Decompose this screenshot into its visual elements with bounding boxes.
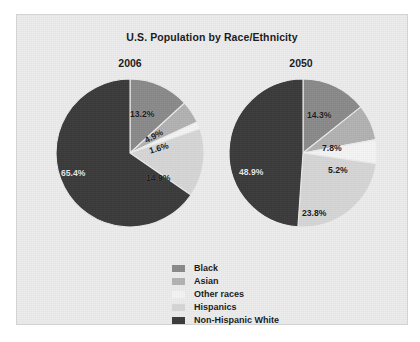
legend-label-black: Black — [194, 262, 218, 275]
panel-title-2006: 2006 — [90, 57, 170, 69]
legend-item-asian: Asian — [172, 275, 279, 288]
pie-chart-2006 — [54, 77, 206, 229]
slice-label-2050-hispanics: 23.8% — [302, 208, 326, 218]
pie-slice — [229, 79, 303, 227]
legend-item-black: Black — [172, 262, 279, 275]
legend-label-non-hispanic-white: Non-Hispanic White — [194, 314, 279, 327]
pie-2050-svg — [227, 77, 379, 229]
legend-label-other-races: Other races — [194, 288, 244, 301]
legend-swatch-icon-black — [172, 265, 185, 272]
slice-label-2006-hispanics: 14.9% — [146, 173, 170, 183]
legend-swatch-icon-other-races — [172, 291, 185, 298]
slice-label-2006-black: 13.2% — [130, 109, 154, 119]
slice-label-2050-white: 48.9% — [239, 167, 263, 177]
legend-label-hispanics: Hispanics — [194, 301, 237, 314]
legend: Black Asian Other races Hispanics Non-Hi… — [172, 262, 279, 327]
legend-swatch-icon-non-hispanic-white — [172, 317, 185, 324]
pie-2006-svg — [54, 77, 206, 229]
legend-swatch-icon-asian — [172, 278, 185, 285]
slice-label-2050-other: 5.2% — [328, 165, 348, 175]
slice-label-2050-asian: 7.8% — [322, 143, 342, 153]
panel-title-2050: 2050 — [261, 57, 341, 69]
legend-item-non-hispanic-white: Non-Hispanic White — [172, 314, 279, 327]
chart-title: U.S. Population by Race/Ethnicity — [17, 31, 407, 43]
legend-item-other-races: Other races — [172, 288, 279, 301]
legend-swatch-icon-hispanics — [172, 304, 185, 311]
legend-label-asian: Asian — [194, 275, 219, 288]
slice-label-2006-white: 65.4% — [61, 168, 85, 178]
chart-figure: U.S. Population by Race/Ethnicity 2006 1… — [16, 14, 408, 325]
legend-item-hispanics: Hispanics — [172, 301, 279, 314]
pie-chart-2050 — [227, 77, 379, 229]
slice-label-2050-black: 14.3% — [307, 110, 331, 120]
